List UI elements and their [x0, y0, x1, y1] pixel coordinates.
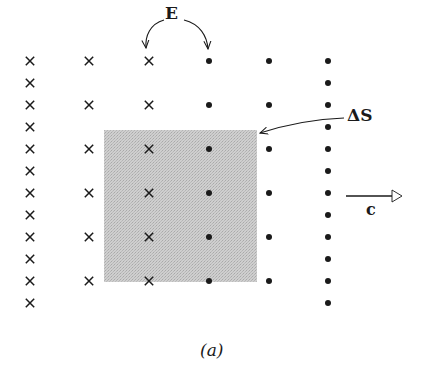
dot-symbol-icon — [266, 190, 272, 196]
wave-field-diagram: E ΔS c (a) — [0, 0, 426, 382]
cross-symbol-icon — [26, 255, 34, 263]
dot-symbol-icon — [325, 212, 331, 218]
cross-symbol-icon — [26, 277, 34, 285]
surface-element-delta-s — [104, 130, 257, 282]
dot-symbol-icon — [206, 146, 212, 152]
cross-symbol-icon — [26, 57, 34, 65]
cross-symbol-icon — [85, 233, 93, 241]
cross-symbol-icon — [26, 189, 34, 197]
e-arrow-right — [184, 20, 208, 49]
cross-symbol-icon — [26, 233, 34, 241]
cross-symbol-icon — [26, 123, 34, 131]
dot-symbol-icon — [206, 190, 212, 196]
dot-symbol-icon — [206, 102, 212, 108]
dot-symbol-icon — [325, 124, 331, 130]
cross-symbol-icon — [26, 299, 34, 307]
dot-symbol-icon — [266, 102, 272, 108]
dot-symbol-icon — [266, 234, 272, 240]
velocity-arrow-head-icon — [392, 190, 402, 202]
dot-symbol-icon — [325, 80, 331, 86]
dot-symbol-icon — [325, 278, 331, 284]
delta-s-pointer-arrow — [260, 118, 344, 133]
cross-symbol-icon — [85, 57, 93, 65]
cross-symbol-icon — [26, 101, 34, 109]
electric-field-label: E — [165, 3, 178, 23]
surface-element-label: ΔS — [347, 105, 372, 125]
dot-symbol-icon — [325, 168, 331, 174]
dot-symbol-icon — [206, 234, 212, 240]
cross-symbol-icon — [145, 57, 153, 65]
dot-symbol-icon — [266, 278, 272, 284]
e-arrow-left — [146, 20, 164, 48]
dot-symbol-icon — [206, 58, 212, 64]
cross-symbol-icon — [26, 211, 34, 219]
cross-symbol-icon — [85, 189, 93, 197]
dot-symbol-icon — [325, 256, 331, 262]
cross-symbol-icon — [26, 79, 34, 87]
dot-symbol-icon — [325, 146, 331, 152]
figure-caption: (a) — [200, 340, 223, 360]
dot-symbol-icon — [325, 102, 331, 108]
cross-symbol-icon — [85, 277, 93, 285]
cross-symbol-icon — [145, 101, 153, 109]
dot-symbol-icon — [266, 58, 272, 64]
dot-symbol-icon — [325, 234, 331, 240]
dot-symbol-icon — [325, 58, 331, 64]
dot-symbol-icon — [325, 300, 331, 306]
dot-symbol-icon — [206, 278, 212, 284]
diagram-canvas — [0, 0, 426, 382]
dot-symbol-icon — [325, 190, 331, 196]
velocity-label: c — [366, 200, 376, 219]
dot-symbol-icon — [266, 146, 272, 152]
cross-symbol-icon — [26, 145, 34, 153]
cross-symbol-icon — [85, 101, 93, 109]
cross-symbol-icon — [26, 167, 34, 175]
cross-symbol-icon — [85, 145, 93, 153]
